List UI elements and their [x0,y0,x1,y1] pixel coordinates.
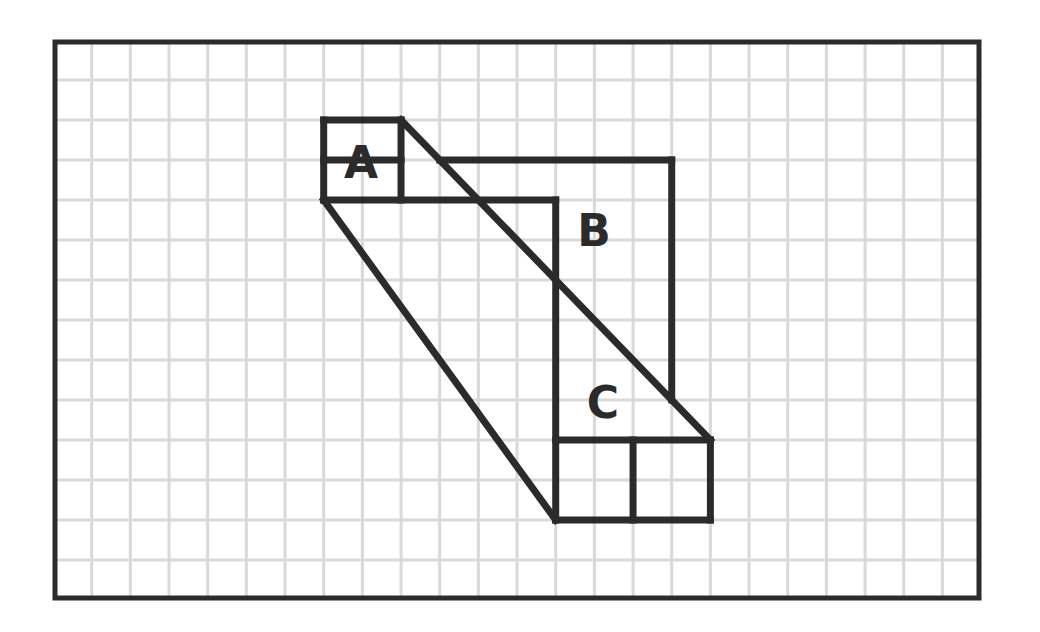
label-c: C [587,377,619,428]
background [0,0,1040,632]
diagram-canvas: A B C [0,0,1040,632]
label-b: B [577,205,611,256]
label-a: A [344,137,378,188]
